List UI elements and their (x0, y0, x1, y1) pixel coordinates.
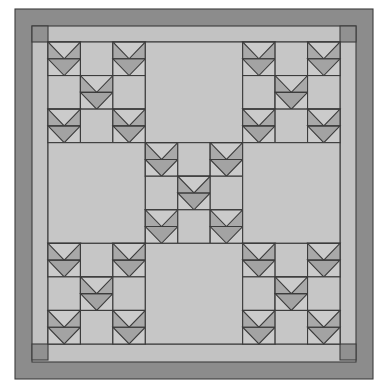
patch (145, 176, 177, 210)
patch (243, 277, 275, 311)
corner-square (340, 344, 356, 360)
patch (80, 310, 112, 344)
patch (48, 76, 80, 110)
patch (275, 42, 307, 76)
patch (80, 42, 112, 76)
patch (178, 143, 210, 177)
patch (80, 243, 112, 277)
patch (178, 210, 210, 244)
quilt-illustration (0, 0, 383, 390)
patch (275, 310, 307, 344)
plain-block (243, 143, 340, 244)
patch (275, 243, 307, 277)
patch (308, 76, 340, 110)
patch (243, 76, 275, 110)
patch (113, 76, 145, 110)
patch (308, 277, 340, 311)
patch (275, 109, 307, 143)
plain-block (145, 42, 242, 143)
patch (210, 176, 242, 210)
corner-square (32, 26, 48, 42)
plain-block (48, 143, 145, 244)
corner-square (340, 26, 356, 42)
patch (80, 109, 112, 143)
plain-block (145, 243, 242, 344)
patch (48, 277, 80, 311)
corner-square (32, 344, 48, 360)
patch (113, 277, 145, 311)
